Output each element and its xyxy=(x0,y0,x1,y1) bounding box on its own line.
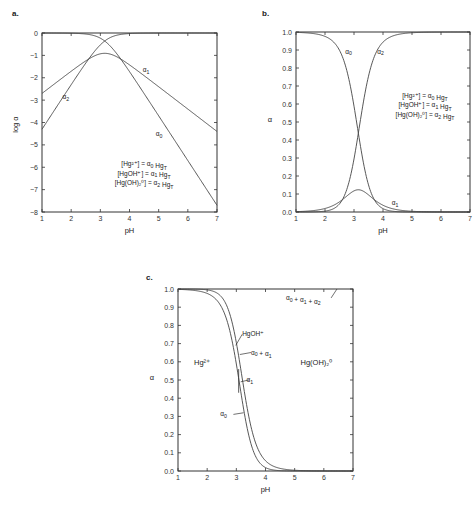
y-tick-label: 0.6 xyxy=(164,358,174,365)
y-tick-label: 0.4 xyxy=(282,137,292,144)
curve-annotation: HgOH⁺ xyxy=(242,330,264,338)
y-tick-label: −4 xyxy=(30,119,38,126)
annotation-arrow xyxy=(233,413,243,415)
y-axis-label: log α xyxy=(11,116,20,133)
x-tick-label: 4 xyxy=(128,215,132,222)
y-tick-label: 0 xyxy=(34,30,38,37)
x-axis-label: pH xyxy=(125,226,135,235)
x-tick-label: 4 xyxy=(381,215,385,222)
x-tick-label: 7 xyxy=(351,474,355,481)
y-axis-label: α xyxy=(268,115,273,124)
x-tick-label: 3 xyxy=(234,474,238,481)
x-tick-label: 2 xyxy=(69,215,73,222)
y-tick-label: −6 xyxy=(30,164,38,171)
panel-b-alpha-chart: b.12345670.00.10.20.30.40.50.60.70.80.91… xyxy=(262,9,472,235)
annotation-arrow xyxy=(240,353,251,355)
curve-label: α1 xyxy=(392,199,399,208)
y-tick-label: 0.9 xyxy=(282,47,292,54)
curve-label: α0 xyxy=(345,48,352,57)
x-tick-label: 5 xyxy=(293,474,297,481)
y-tick-label: −2 xyxy=(30,74,38,81)
y-tick-label: −7 xyxy=(30,186,38,193)
y-tick-label: 0.6 xyxy=(282,101,292,108)
curve-label: α2 xyxy=(377,48,384,57)
curve-label: α2 xyxy=(62,93,69,102)
y-tick-label: −8 xyxy=(30,209,38,216)
curve-annotation: α0 + α1 xyxy=(251,349,272,360)
x-tick-label: 2 xyxy=(205,474,209,481)
y-tick-label: −1 xyxy=(30,52,38,59)
x-axis-label: pH xyxy=(261,485,271,494)
y-tick-label: 0.2 xyxy=(164,431,174,438)
legend-equation: [Hg(OH)₂⁰] = α2 HgT xyxy=(396,111,456,122)
y-tick-label: 0.3 xyxy=(164,413,174,420)
curve-α1 xyxy=(42,53,217,131)
y-tick-label: 0.1 xyxy=(164,449,174,456)
x-tick-label: 7 xyxy=(215,215,219,222)
x-tick-label: 1 xyxy=(40,215,44,222)
y-tick-label: 0.2 xyxy=(282,173,292,180)
curve-alpha0 xyxy=(178,289,353,471)
y-tick-label: 0.7 xyxy=(282,83,292,90)
y-axis-label: α xyxy=(150,373,155,382)
y-tick-label: 0.7 xyxy=(164,340,174,347)
region-label: Hg(OH)₂⁰ xyxy=(301,358,333,367)
y-tick-label: −5 xyxy=(30,141,38,148)
y-tick-label: 0.8 xyxy=(164,322,174,329)
x-tick-label: 6 xyxy=(322,474,326,481)
y-tick-label: 0.4 xyxy=(164,395,174,402)
panel-a-log-alpha-chart: a.12345670−1−2−3−4−5−6−7−8pHlog αα1α2α0[… xyxy=(11,9,219,235)
y-tick-label: 0.8 xyxy=(282,65,292,72)
speciation-figure: a.12345670−1−2−3−4−5−6−7−8pHlog αα1α2α0[… xyxy=(0,0,474,505)
panel-label: a. xyxy=(12,9,19,18)
annotation-arrow xyxy=(331,289,337,298)
plot-frame xyxy=(296,32,470,212)
x-tick-label: 1 xyxy=(176,474,180,481)
y-tick-label: 0.5 xyxy=(282,119,292,126)
curve-α2 xyxy=(296,32,470,212)
x-tick-label: 3 xyxy=(352,215,356,222)
y-tick-label: 1.0 xyxy=(164,286,174,293)
panel-c-cumulative-alpha-chart: c.12345670.00.10.20.30.40.50.60.70.80.91… xyxy=(146,273,355,494)
x-tick-label: 6 xyxy=(186,215,190,222)
x-tick-label: 3 xyxy=(98,215,102,222)
x-tick-label: 5 xyxy=(157,215,161,222)
x-tick-label: 5 xyxy=(410,215,414,222)
x-tick-label: 7 xyxy=(468,215,472,222)
y-tick-label: 0.5 xyxy=(164,377,174,384)
y-tick-label: 0.0 xyxy=(282,209,292,216)
panel-label: b. xyxy=(262,9,269,18)
plot-frame xyxy=(178,289,353,471)
curve-alpha0-plus-alpha1 xyxy=(178,289,353,471)
x-tick-label: 2 xyxy=(323,215,327,222)
curve-α2 xyxy=(42,33,217,129)
x-tick-label: 4 xyxy=(264,474,268,481)
y-tick-label: 1.0 xyxy=(282,29,292,36)
y-tick-label: 0.0 xyxy=(164,468,174,475)
curve-α0 xyxy=(296,32,470,212)
annotation-arrow xyxy=(236,334,242,345)
x-axis-label: pH xyxy=(378,226,388,235)
y-tick-label: 0.3 xyxy=(282,155,292,162)
x-tick-label: 1 xyxy=(294,215,298,222)
panel-label: c. xyxy=(146,273,153,282)
region-label: Hg²⁺ xyxy=(194,358,210,367)
y-tick-label: 0.9 xyxy=(164,304,174,311)
y-tick-label: −3 xyxy=(30,97,38,104)
curve-label: α0 xyxy=(156,130,163,139)
y-tick-label: 0.1 xyxy=(282,191,292,198)
legend-equation: [Hg(OH)₂⁰] = α2 HgT xyxy=(115,179,175,190)
curve-annotation: α0 + α1 + α2 xyxy=(286,294,321,306)
x-tick-label: 6 xyxy=(439,215,443,222)
curve-label: α1 xyxy=(143,66,150,75)
curve-annotation: α0 xyxy=(220,410,227,419)
